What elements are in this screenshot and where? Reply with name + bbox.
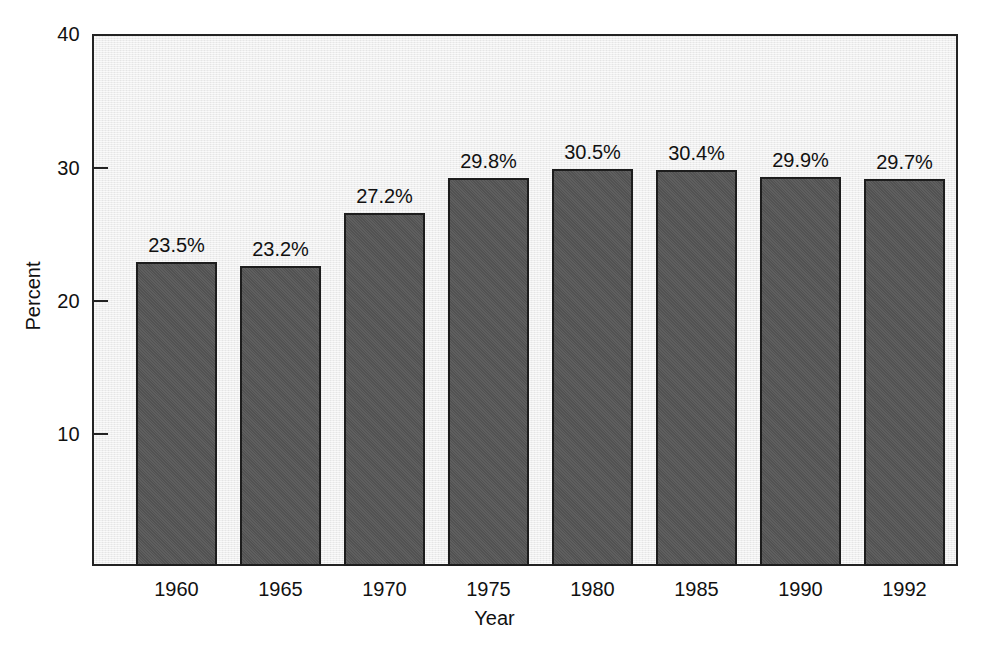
bar-value-label-1985: 30.4% (641, 142, 752, 164)
y-tick-mark-10 (94, 433, 108, 435)
y-tick-label-10: 10 (36, 424, 80, 444)
y-tick-label-40: 40 (36, 24, 80, 44)
x-tick-label-1985: 1985 (641, 578, 752, 600)
y-axis-title: Percent (23, 262, 43, 331)
bar-1990 (760, 177, 841, 566)
x-axis-title: Year (0, 607, 989, 629)
bar-1965 (240, 266, 321, 566)
bar-value-label-1965: 23.2% (225, 238, 336, 260)
bar-value-label-1975: 29.8% (433, 150, 544, 172)
x-tick-label-1980: 1980 (537, 578, 648, 600)
bar-chart: 40 30 20 10 Percent 23.5% 23.2% 27.2% 29… (0, 0, 989, 645)
y-tick-label-30: 30 (36, 158, 80, 178)
bar-1980 (552, 169, 633, 566)
bar-1975 (448, 178, 529, 566)
y-tick-mark-30 (94, 167, 108, 169)
bar-value-label-1990: 29.9% (745, 149, 856, 171)
x-tick-label-1975: 1975 (433, 578, 544, 600)
x-tick-label-1992: 1992 (849, 578, 960, 600)
bar-value-label-1970: 27.2% (329, 185, 440, 207)
x-tick-label-1970: 1970 (329, 578, 440, 600)
y-tick-mark-20 (94, 300, 108, 302)
x-tick-label-1960: 1960 (121, 578, 232, 600)
bar-1960 (136, 262, 217, 566)
x-tick-label-1965: 1965 (225, 578, 336, 600)
bar-1985 (656, 170, 737, 566)
x-tick-label-1990: 1990 (745, 578, 856, 600)
bar-1992 (864, 179, 945, 566)
bar-value-label-1960: 23.5% (121, 234, 232, 256)
bar-value-label-1980: 30.5% (537, 141, 648, 163)
bar-1970 (344, 213, 425, 566)
bar-value-label-1992: 29.7% (849, 151, 960, 173)
